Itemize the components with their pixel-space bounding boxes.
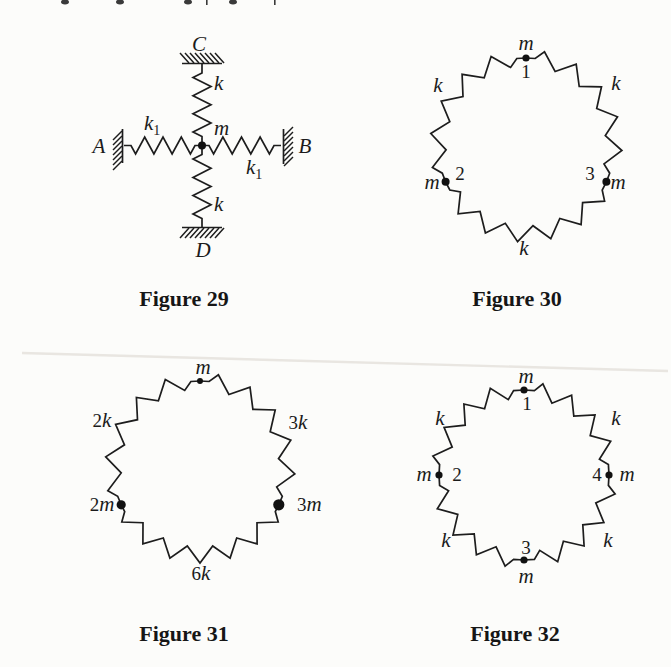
label-spring-bottom-k: k (214, 192, 224, 216)
spring-ring-upper-right (524, 384, 611, 475)
label-spring-upper-right-k: k (611, 406, 621, 430)
mass-dot-2 (435, 471, 442, 478)
figure-29-caption: Figure 29 (139, 286, 228, 311)
textbook-page: C A B D k m k k1 k1 Figure 29 m 1 m 2 3 … (0, 0, 671, 667)
figure-32-caption: Figure 32 (470, 621, 559, 646)
figure-31-diagram: m 2k 3k 2m 3m 6k (90, 355, 322, 585)
label-mass-m: m (214, 116, 229, 140)
label-wall-A: A (91, 134, 106, 158)
label-mass-top-m: m (195, 355, 210, 379)
label-spring-upper-left-2k: 2k (93, 408, 113, 432)
mass-dot (198, 142, 206, 150)
label-spring-lower-right-k: k (603, 528, 613, 552)
figure-31-caption: Figure 31 (139, 621, 228, 646)
figure-30-caption: Figure 30 (472, 286, 561, 311)
spring-ring-upper-right (526, 52, 622, 182)
mass-dot-3 (602, 178, 610, 186)
figure-30-diagram: m 1 m 2 3 m k k k (424, 31, 625, 260)
spring-ring-lower-right (524, 475, 615, 562)
spring-bottom (193, 146, 211, 228)
label-spring-bottom-k: k (519, 236, 529, 260)
label-spring-left-k1: k1 (144, 111, 160, 138)
label-mass-top-m: m (518, 31, 533, 55)
figures-canvas: C A B D k m k k1 k1 Figure 29 m 1 m 2 3 … (0, 0, 671, 667)
label-spring-top-k: k (214, 71, 224, 95)
label-mass-right-3m: 3m (297, 492, 322, 516)
label-mass-left-2: 2 (455, 163, 465, 184)
label-mass-right-m: m (610, 170, 625, 194)
clipped-text-line-fragments (61, 0, 276, 5)
scan-crease-line (22, 353, 668, 371)
label-wall-C: C (192, 32, 207, 56)
spring-ring-upper-left (106, 380, 200, 505)
label-wall-D: D (194, 238, 210, 262)
label-spring-upper-left-k: k (435, 406, 445, 430)
mass-dot-3m (273, 499, 284, 510)
wall-anchor-bottom (180, 228, 224, 239)
spring-ring-upper-left (433, 388, 524, 475)
mass-dot-4 (605, 471, 612, 478)
label-spring-bottom-6k: 6k (192, 561, 212, 585)
spring-ring-upper-right (200, 375, 295, 505)
label-spring-lower-left-k: k (441, 528, 451, 552)
figure-29-diagram: C A B D k m k k1 k1 (91, 32, 312, 262)
figure-32-diagram: m 1 m 2 4 m 3 m k k k k (416, 364, 634, 588)
label-mass-bottom-3: 3 (521, 537, 531, 558)
label-mass-right-4: 4 (592, 464, 602, 485)
label-mass-right-m: m (619, 462, 634, 486)
label-spring-right-k1: k1 (246, 155, 262, 182)
spring-ring-upper-left (431, 57, 526, 182)
wall-anchor-left (113, 129, 123, 170)
spring-ring-bottom (121, 505, 279, 563)
label-mass-bottom-m: m (518, 564, 533, 588)
mass-dot-2 (442, 178, 450, 186)
label-mass-left-m: m (416, 462, 431, 486)
label-mass-top-1: 1 (521, 61, 531, 82)
spring-ring-bottom (446, 182, 607, 242)
label-spring-upper-right-3k: 3k (289, 410, 309, 434)
label-mass-top-m: m (518, 364, 533, 388)
label-wall-B: B (299, 134, 312, 158)
label-mass-top-1: 1 (522, 393, 532, 414)
label-mass-right-3: 3 (585, 163, 595, 184)
label-mass-left-2: 2 (452, 464, 462, 485)
label-spring-upper-right-k: k (611, 71, 621, 95)
label-spring-upper-left-k: k (433, 73, 443, 97)
spring-left (124, 137, 202, 154)
wall-anchor-right (284, 127, 294, 166)
label-mass-left-2m: 2m (90, 492, 115, 516)
spring-top (193, 64, 211, 146)
spring-ring-lower-left (437, 475, 524, 566)
label-mass-left-m: m (424, 170, 439, 194)
mass-dot-2m (117, 500, 126, 509)
